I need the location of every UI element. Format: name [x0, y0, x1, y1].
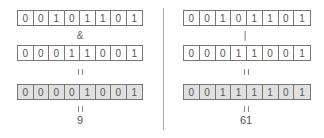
- or-operator: |: [164, 30, 324, 41]
- bit-cell: 0: [96, 85, 112, 99]
- bit-cell: 1: [247, 85, 263, 99]
- bit-cell: 0: [231, 11, 247, 25]
- equals-sign-icon: [165, 69, 324, 77]
- bit-cell: 0: [279, 85, 295, 99]
- bit-cell: 1: [294, 85, 310, 99]
- bit-cell: 1: [127, 85, 143, 99]
- bit-cell: 0: [184, 46, 200, 60]
- bit-cell: 1: [247, 11, 263, 25]
- bit-cell: 0: [18, 46, 34, 60]
- bit-cell: 0: [34, 46, 50, 60]
- bit-cell: 0: [65, 11, 81, 25]
- result-bits: 0 0 1 1 1 1 0 1: [183, 84, 311, 100]
- bit-cell: 1: [96, 11, 112, 25]
- result-bits: 0 0 0 0 1 0 0 1: [17, 84, 143, 100]
- bit-cell: 1: [294, 11, 310, 25]
- bit-cell: 0: [65, 85, 81, 99]
- bit-cell: 1: [231, 85, 247, 99]
- operand-b-bits: 0 0 0 1 1 0 0 1: [17, 45, 143, 61]
- equals-sign-icon: [0, 106, 161, 114]
- bit-cell: 0: [18, 85, 34, 99]
- bit-cell: 1: [216, 11, 232, 25]
- bit-cell: 0: [200, 46, 216, 60]
- operand-a-bits: 0 0 1 0 1 1 0 1: [17, 10, 143, 26]
- bit-cell: 1: [127, 46, 143, 60]
- bit-cell: 0: [200, 11, 216, 25]
- result-decimal: 9: [0, 114, 161, 126]
- bit-cell: 0: [34, 11, 50, 25]
- bit-cell: 1: [263, 85, 279, 99]
- or-panel: 0 0 1 0 1 1 0 1 | 0 0 0 1 1 0 0 1 0 0 1 …: [165, 0, 324, 138]
- bit-cell: 0: [34, 85, 50, 99]
- bit-cell: 1: [247, 46, 263, 60]
- bit-cell: 0: [49, 46, 65, 60]
- bit-cell: 1: [80, 46, 96, 60]
- equals-sign-icon: [0, 69, 161, 77]
- bit-cell: 1: [65, 46, 81, 60]
- bit-cell: 0: [279, 46, 295, 60]
- bit-cell: 0: [200, 85, 216, 99]
- bit-cell: 0: [111, 46, 127, 60]
- bit-cell: 1: [80, 11, 96, 25]
- operand-b-bits: 0 0 0 1 1 0 0 1: [183, 45, 311, 61]
- bit-cell: 0: [96, 46, 112, 60]
- bit-cell: 0: [111, 85, 127, 99]
- bit-cell: 1: [231, 46, 247, 60]
- bit-cell: 0: [111, 11, 127, 25]
- bit-cell: 1: [80, 85, 96, 99]
- bit-cell: 0: [49, 85, 65, 99]
- bit-cell: 1: [216, 85, 232, 99]
- bit-cell: 1: [127, 11, 143, 25]
- bit-cell: 0: [184, 85, 200, 99]
- operand-a-bits: 0 0 1 0 1 1 0 1: [183, 10, 311, 26]
- bit-cell: 0: [18, 11, 34, 25]
- bit-cell: 0: [184, 11, 200, 25]
- result-decimal: 61: [165, 114, 324, 126]
- bit-cell: 1: [49, 11, 65, 25]
- panel-divider: [163, 8, 164, 130]
- bit-cell: 0: [216, 46, 232, 60]
- bit-cell: 1: [263, 11, 279, 25]
- and-operator: &: [0, 30, 161, 41]
- bit-cell: 0: [263, 46, 279, 60]
- equals-sign-icon: [165, 106, 324, 114]
- and-panel: 0 0 1 0 1 1 0 1 & 0 0 0 1 1 0 0 1 0 0 0 …: [0, 0, 162, 138]
- bit-cell: 1: [294, 46, 310, 60]
- bit-cell: 0: [279, 11, 295, 25]
